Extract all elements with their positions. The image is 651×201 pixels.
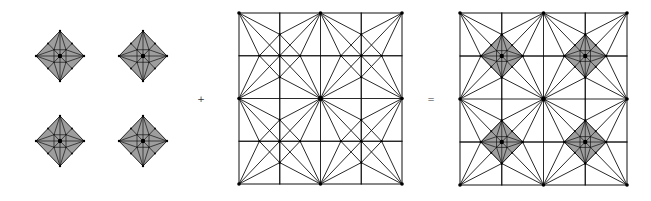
edge xyxy=(321,141,341,184)
edge xyxy=(544,99,586,121)
edge xyxy=(239,141,259,184)
edge xyxy=(382,13,402,56)
vertex-node xyxy=(340,55,342,57)
edge xyxy=(544,99,565,142)
edge xyxy=(502,78,544,100)
edge xyxy=(382,99,402,142)
edge xyxy=(606,13,627,56)
edge xyxy=(239,77,280,98)
vertex-node xyxy=(154,68,156,70)
vertex-node xyxy=(47,128,49,130)
vertex-node xyxy=(142,165,144,167)
vertex-node xyxy=(490,152,492,154)
vertex-node xyxy=(480,55,482,57)
triangulated-grid-panel xyxy=(237,11,404,186)
diamond-tiles-panel xyxy=(35,30,168,167)
vertex-node xyxy=(166,55,168,57)
vertex-node xyxy=(458,97,462,101)
edge xyxy=(361,163,402,184)
vertex-node xyxy=(501,162,503,164)
vertex-node xyxy=(625,183,629,187)
vertex-node xyxy=(574,66,576,68)
vertex-node xyxy=(574,130,576,132)
vertex-node xyxy=(319,182,323,186)
vertex-node xyxy=(490,130,492,132)
edge xyxy=(239,99,259,142)
vertex-node xyxy=(574,152,576,154)
vertex-node xyxy=(166,140,168,142)
vertex-node xyxy=(237,11,241,15)
vertex-node xyxy=(490,44,492,46)
vertex-node xyxy=(258,55,260,57)
edge xyxy=(544,13,565,56)
vertex-node xyxy=(595,152,597,154)
vertex-node xyxy=(35,140,37,142)
vertex-node xyxy=(521,55,523,57)
edge xyxy=(239,13,280,34)
edge xyxy=(606,56,627,99)
equals-operator: = xyxy=(427,94,435,104)
edge xyxy=(585,99,627,121)
vertex-node xyxy=(318,96,323,101)
vertex-node xyxy=(299,140,301,142)
vertex-node xyxy=(47,68,49,70)
edge xyxy=(502,164,544,186)
edge xyxy=(361,13,402,34)
vertex-node xyxy=(500,54,504,58)
edge xyxy=(300,13,320,56)
edge xyxy=(460,13,502,35)
vertex-node xyxy=(278,54,281,57)
vertex-node xyxy=(141,54,145,58)
vertex-node xyxy=(299,55,301,57)
vertex-node xyxy=(595,130,597,132)
vertex-node xyxy=(118,55,120,57)
edge xyxy=(321,13,362,34)
edge xyxy=(460,78,502,100)
edge xyxy=(280,163,321,184)
vertex-node xyxy=(400,182,404,186)
vertex-node xyxy=(400,97,404,101)
vertex-node xyxy=(542,11,546,15)
vertex-node xyxy=(58,139,62,143)
vertex-node xyxy=(154,153,156,155)
vertex-node xyxy=(83,140,85,142)
vertex-node xyxy=(584,119,586,121)
asanoha-diamond xyxy=(35,30,85,82)
edge xyxy=(460,56,481,99)
vertex-node xyxy=(563,141,565,143)
edge xyxy=(523,99,544,142)
vertex-node xyxy=(237,182,241,186)
edge xyxy=(300,56,320,99)
edge xyxy=(382,56,402,99)
vertex-node xyxy=(319,11,323,15)
vertex-node xyxy=(583,54,587,58)
edge xyxy=(585,164,627,186)
vertex-node xyxy=(625,97,629,101)
vertex-node xyxy=(142,115,144,117)
vertex-node xyxy=(71,153,73,155)
vertex-node xyxy=(511,130,513,132)
vertex-node xyxy=(142,80,144,82)
vertex-node xyxy=(130,43,132,45)
edge xyxy=(280,77,321,98)
edge xyxy=(502,13,544,35)
edge xyxy=(523,13,544,56)
vertex-node xyxy=(605,55,607,57)
vertex-node xyxy=(583,140,587,144)
vertex-node xyxy=(400,11,404,15)
vertex-node xyxy=(511,66,513,68)
edge xyxy=(321,163,362,184)
edge xyxy=(300,141,320,184)
edge xyxy=(544,78,586,100)
vertex-node xyxy=(584,162,586,164)
vertex-node xyxy=(340,140,342,142)
edge xyxy=(280,99,321,120)
vertex-node xyxy=(490,66,492,68)
edge xyxy=(321,56,341,99)
vertex-node xyxy=(625,11,629,15)
vertex-node xyxy=(360,119,362,121)
vertex-node xyxy=(59,80,61,82)
vertex-node xyxy=(71,43,73,45)
vertex-node xyxy=(541,97,546,102)
vertex-node xyxy=(563,55,565,57)
